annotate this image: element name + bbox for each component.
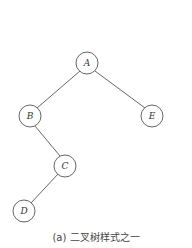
edge-b-c	[35, 126, 60, 156]
figure-caption: (a) 二叉树样式之一	[0, 229, 192, 244]
node-d-label: D	[19, 206, 27, 216]
node-e-label: E	[148, 111, 156, 121]
nodes	[13, 52, 163, 222]
binary-tree-diagram: A B E C D	[0, 0, 192, 248]
node-c-label: C	[62, 161, 69, 171]
edge-a-b	[37, 71, 80, 108]
node-a-label: A	[83, 58, 91, 68]
edges	[31, 71, 145, 203]
edge-c-d	[31, 174, 58, 203]
edge-a-e	[95, 71, 145, 108]
node-b-label: B	[26, 111, 34, 121]
